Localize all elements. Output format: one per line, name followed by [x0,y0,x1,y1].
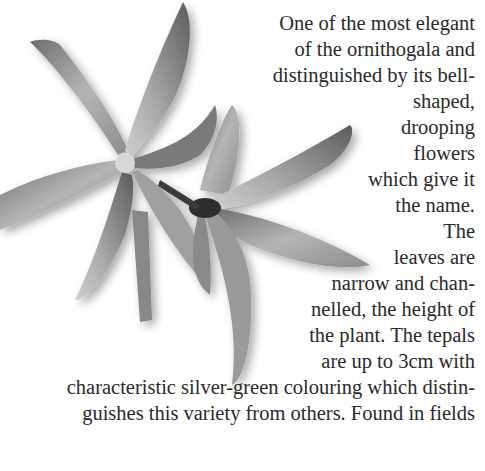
text-line: the name. [395,192,475,218]
text-line: characteristic silver-green colouring wh… [67,374,475,400]
text-line: flowers [414,140,475,166]
document-page: One of the most elegant of the ornithoga… [0,0,485,471]
text-line: nelled, the height of [311,296,475,322]
text-line: distinguished by its bell- [273,62,475,88]
text-line: are up to 3cm with [321,348,475,374]
text-line: drooping [401,114,475,140]
text-line: One of the most elegant [279,10,475,36]
text-line: leaves are [394,244,475,270]
text-line: The [443,218,475,244]
text-line: of the ornithogala and [295,36,475,62]
text-line: which give it [368,166,475,192]
text-line: shaped, [413,88,475,114]
text-line: narrow and chan- [332,270,475,296]
text-line: the plant. The tepals [309,322,475,348]
text-line: guishes this variety from others. Found … [82,400,475,426]
